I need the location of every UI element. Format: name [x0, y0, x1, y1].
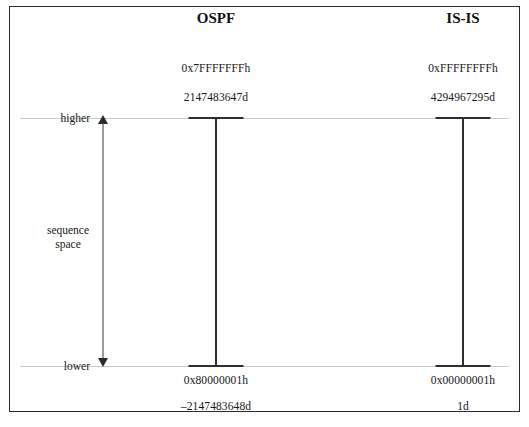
sequence-space-diagram: OSPF 0x7FFFFFFFh 2147483647d 0x80000001h…	[0, 0, 529, 427]
ospf-min-decimal-label: –2147483648d	[181, 400, 251, 412]
isis-min-hex-label: 0x00000001h	[431, 374, 495, 386]
ospf-max-decimal-label: 2147483647d	[184, 91, 248, 103]
sequence-space-axis	[103, 122, 104, 362]
column-title-isis: IS-IS	[446, 10, 479, 27]
ospf-bar-bottom-cap	[189, 365, 244, 367]
axis-arrow-down-icon	[98, 358, 108, 367]
sequence-space-caption: sequence space	[47, 223, 89, 251]
ospf-max-hex-label: 0x7FFFFFFFh	[182, 62, 251, 74]
isis-bar-bottom-cap	[436, 365, 491, 367]
isis-range-bar	[462, 117, 464, 367]
sequence-space-caption-line2: space	[47, 237, 89, 251]
isis-min-decimal-label: 1d	[457, 400, 469, 412]
axis-label-higher: higher	[48, 112, 90, 124]
column-title-ospf: OSPF	[197, 10, 235, 27]
ospf-range-bar	[215, 117, 217, 367]
axis-label-lower: lower	[48, 360, 90, 372]
ospf-min-hex-label: 0x80000001h	[184, 374, 248, 386]
sequence-space-caption-line1: sequence	[47, 223, 89, 237]
isis-max-hex-label: 0xFFFFFFFFh	[428, 62, 498, 74]
isis-max-decimal-label: 4294967295d	[431, 91, 495, 103]
